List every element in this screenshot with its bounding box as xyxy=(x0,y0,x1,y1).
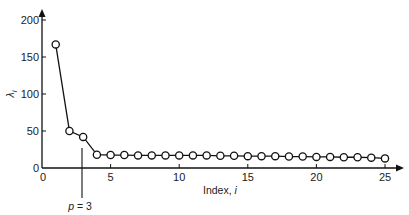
x-axis-arrow-icon xyxy=(396,165,404,172)
data-point-marker xyxy=(285,153,292,160)
data-point-marker xyxy=(354,154,361,161)
data-point-marker xyxy=(52,41,59,48)
eigenvalue-markers xyxy=(52,41,388,162)
x-tick-label: 25 xyxy=(379,171,391,183)
y-axis-label: λi xyxy=(4,90,19,98)
eigenvalue-line xyxy=(56,44,385,158)
x-tick-label: 0 xyxy=(40,171,46,183)
data-point-marker xyxy=(134,152,141,159)
x-tick-label: 10 xyxy=(173,171,185,183)
data-point-marker xyxy=(189,152,196,159)
x-tick-label: 20 xyxy=(310,171,322,183)
y-tick-label: 100 xyxy=(21,88,39,100)
data-point-marker xyxy=(272,153,279,160)
data-point-marker xyxy=(148,152,155,159)
data-point-marker xyxy=(313,153,320,160)
data-point-marker xyxy=(340,154,347,161)
y-axis-arrow-icon xyxy=(39,9,46,17)
scree-plot: 050100150200 0510152025 λi Index, i p = … xyxy=(0,0,409,215)
p-value: = 3 xyxy=(74,200,92,212)
data-point-marker xyxy=(93,151,100,158)
data-point-marker xyxy=(299,153,306,160)
x-tick-label: 5 xyxy=(108,171,114,183)
x-ticks: 0510152025 xyxy=(40,164,391,183)
y-tick-label: 200 xyxy=(21,14,39,26)
data-point-marker xyxy=(80,133,87,140)
x-label-text: Index, xyxy=(203,184,235,196)
x-tick-label: 15 xyxy=(242,171,254,183)
axes xyxy=(39,9,405,172)
data-point-marker xyxy=(258,153,265,160)
y-label-subscript: i xyxy=(10,90,19,92)
data-point-marker xyxy=(244,153,251,160)
y-tick-label: 0 xyxy=(33,162,39,174)
x-axis-label: Index, i xyxy=(203,184,238,196)
x-label-variable: i xyxy=(235,184,238,196)
svg-text:λi: λi xyxy=(4,90,19,98)
data-point-marker xyxy=(121,151,128,158)
p-cutoff-label: p = 3 xyxy=(67,200,92,212)
data-point-marker xyxy=(327,153,334,160)
data-point-marker xyxy=(217,152,224,159)
data-point-marker xyxy=(162,152,169,159)
data-point-marker xyxy=(368,154,375,161)
data-point-marker xyxy=(381,155,388,162)
data-point-marker xyxy=(203,152,210,159)
y-tick-label: 150 xyxy=(21,51,39,63)
data-point-marker xyxy=(230,152,237,159)
y-tick-label: 50 xyxy=(27,125,39,137)
data-point-marker xyxy=(66,127,73,134)
data-point-marker xyxy=(107,151,114,158)
data-point-marker xyxy=(176,152,183,159)
